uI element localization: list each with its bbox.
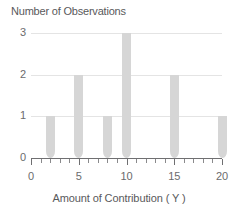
y-axis-tick-label: 3: [6, 27, 26, 38]
x-axis-minor-tick: [165, 159, 166, 163]
y-axis-title: Number of Observations: [11, 5, 126, 18]
x-axis-minor-tick: [184, 159, 185, 163]
x-axis-tick-label: 10: [112, 170, 142, 182]
bar: [46, 116, 55, 158]
bar: [103, 116, 112, 158]
x-axis-tick-label: 15: [159, 170, 189, 182]
x-axis-ticks: [0, 159, 238, 167]
x-axis-minor-tick: [203, 159, 204, 163]
x-axis-tick-label: 20: [207, 170, 237, 182]
plot-area: [31, 33, 222, 158]
x-axis-minor-tick: [193, 159, 194, 163]
x-axis-tick-label: 5: [64, 170, 94, 182]
x-axis-title: Amount of Contribution ( Y ): [0, 192, 238, 205]
x-axis-minor-tick: [69, 159, 70, 163]
x-axis-tick-labels: 05101520: [0, 170, 238, 184]
x-axis-minor-tick: [212, 159, 213, 163]
x-axis-minor-tick: [146, 159, 147, 163]
x-axis-major-tick: [79, 159, 80, 165]
x-axis-minor-tick: [60, 159, 61, 163]
x-axis-end-cap: [222, 159, 223, 165]
bar: [218, 116, 227, 158]
y-axis-tick-label: 1: [6, 110, 26, 121]
x-axis-tick-label: 0: [16, 170, 46, 182]
x-axis-minor-tick: [88, 159, 89, 163]
x-axis-major-tick: [174, 159, 175, 165]
x-axis-minor-tick: [98, 159, 99, 163]
bar: [170, 75, 179, 158]
x-axis-major-tick: [127, 159, 128, 165]
x-axis-minor-tick: [41, 159, 42, 163]
x-axis-end-cap: [31, 159, 32, 165]
x-axis-minor-tick: [136, 159, 137, 163]
bar: [122, 33, 131, 158]
histogram-chart: Number of Observations 0123 05101520 Amo…: [0, 0, 238, 216]
x-axis-minor-tick: [107, 159, 108, 163]
bar: [74, 75, 83, 158]
x-axis-minor-tick: [155, 159, 156, 163]
x-axis-minor-tick: [50, 159, 51, 163]
x-axis-minor-tick: [117, 159, 118, 163]
y-axis-tick-label: 2: [6, 69, 26, 80]
